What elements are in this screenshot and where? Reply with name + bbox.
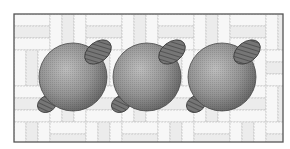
tile <box>266 86 290 122</box>
tile <box>122 122 158 149</box>
spheres-group <box>34 35 265 116</box>
tile <box>266 122 290 149</box>
tile <box>194 122 230 149</box>
sphere-diagram <box>0 0 290 149</box>
tile <box>14 14 50 50</box>
tile <box>50 122 86 149</box>
tile <box>266 14 290 50</box>
tile <box>158 122 194 149</box>
tile <box>266 50 290 86</box>
tile <box>86 122 122 149</box>
diagram-canvas <box>0 0 290 149</box>
tile <box>14 122 50 149</box>
tile <box>230 122 266 149</box>
